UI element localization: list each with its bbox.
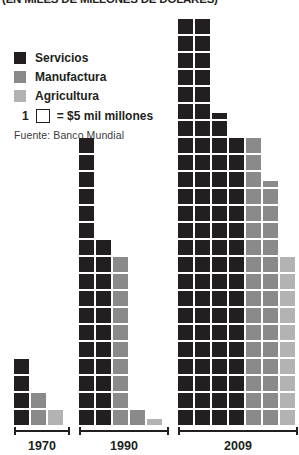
chart-cell (79, 138, 94, 153)
chart-cell (263, 393, 278, 408)
chart-cell (212, 206, 227, 221)
chart-cell (212, 291, 227, 306)
pictogram-chart: 197019902009 (0, 0, 299, 455)
chart-cell (113, 410, 128, 425)
chart-cell (31, 393, 46, 408)
chart-cell (195, 376, 210, 391)
chart-cell (195, 325, 210, 340)
chart-stack (31, 391, 46, 425)
chart-cell (96, 410, 111, 425)
chart-cell (195, 257, 210, 272)
chart-cell (195, 274, 210, 289)
chart-stack (229, 136, 244, 425)
chart-cell (178, 87, 193, 102)
chart-cell (195, 19, 210, 34)
chart-cell (246, 325, 261, 340)
chart-cell-half (147, 419, 162, 425)
chart-cell (229, 206, 244, 221)
chart-cell (96, 274, 111, 289)
chart-cell (178, 53, 193, 68)
chart-cell (246, 206, 261, 221)
chart-cell (195, 240, 210, 255)
chart-cell (212, 274, 227, 289)
chart-cell (263, 223, 278, 238)
chart-cell (246, 138, 261, 153)
chart-cell (195, 410, 210, 425)
chart-cell (246, 155, 261, 170)
chart-cell (96, 376, 111, 391)
chart-cell (79, 155, 94, 170)
axis-cap-right (296, 427, 298, 435)
chart-cell (195, 53, 210, 68)
chart-cell (212, 393, 227, 408)
chart-cell (229, 172, 244, 187)
chart-cell (178, 325, 193, 340)
chart-cell (263, 291, 278, 306)
chart-cell (263, 410, 278, 425)
chart-cell (229, 359, 244, 374)
chart-cell (229, 138, 244, 153)
chart-cell (195, 104, 210, 119)
chart-cell (229, 257, 244, 272)
chart-cell (14, 393, 29, 408)
chart-cell (178, 19, 193, 34)
chart-cell (280, 257, 295, 272)
chart-cell (229, 325, 244, 340)
chart-cell (14, 376, 29, 391)
chart-cell (195, 359, 210, 374)
chart-cell (195, 223, 210, 238)
chart-cell (178, 240, 193, 255)
chart-cell (246, 291, 261, 306)
chart-cell (246, 308, 261, 323)
chart-cell (212, 257, 227, 272)
chart-group-2009 (178, 0, 298, 455)
chart-cell (195, 189, 210, 204)
chart-cell (195, 121, 210, 136)
chart-cell (113, 325, 128, 340)
chart-cell (246, 376, 261, 391)
chart-cell (280, 393, 295, 408)
chart-cell (96, 393, 111, 408)
chart-cell (263, 206, 278, 221)
chart-cell (280, 308, 295, 323)
chart-cell (178, 410, 193, 425)
chart-cell (229, 376, 244, 391)
chart-stack (280, 255, 295, 425)
chart-cell (79, 393, 94, 408)
chart-stack (130, 408, 145, 425)
chart-cell (178, 223, 193, 238)
chart-cell (212, 376, 227, 391)
chart-cell (195, 87, 210, 102)
axis-bracket-2009 (178, 427, 298, 435)
chart-cell (212, 325, 227, 340)
chart-cell (178, 291, 193, 306)
chart-cell (96, 257, 111, 272)
chart-cell (246, 172, 261, 187)
chart-cell (246, 223, 261, 238)
chart-cell (229, 291, 244, 306)
chart-cell (212, 189, 227, 204)
chart-cell (246, 410, 261, 425)
chart-cell (195, 155, 210, 170)
chart-cell (246, 274, 261, 289)
axis-cap-left (14, 427, 16, 435)
chart-stack (147, 417, 162, 425)
chart-cell (178, 206, 193, 221)
chart-cell (195, 206, 210, 221)
chart-cell (280, 274, 295, 289)
chart-cell (96, 291, 111, 306)
chart-cell (246, 393, 261, 408)
chart-cell (263, 359, 278, 374)
axis-line (14, 430, 70, 432)
chart-cell (263, 376, 278, 391)
chart-cell (212, 172, 227, 187)
chart-cell (14, 410, 29, 425)
chart-cell (263, 257, 278, 272)
axis-line (79, 430, 169, 432)
chart-cell (178, 376, 193, 391)
chart-cell (96, 308, 111, 323)
chart-cell (229, 155, 244, 170)
chart-stack (212, 111, 227, 425)
chart-cell (263, 308, 278, 323)
axis-bracket-1990 (79, 427, 169, 435)
